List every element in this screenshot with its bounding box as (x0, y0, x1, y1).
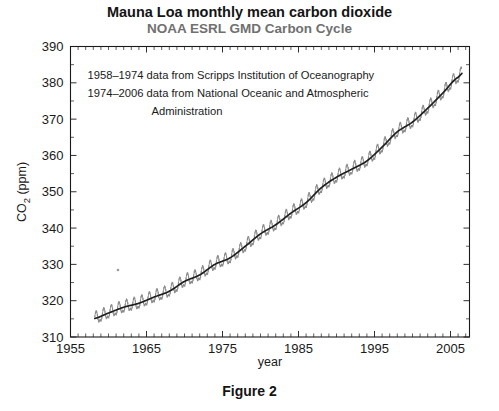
x-tick-label: 1985 (284, 341, 313, 356)
co2-figure: Mauna Loa monthly mean carbon dioxide NO… (0, 0, 499, 411)
annotation-line: 1974–2006 data from National Oceanic and… (88, 87, 370, 99)
x-axis-title: year (258, 355, 282, 369)
y-tick-label: 310 (42, 330, 64, 345)
y-tick-label: 390 (42, 39, 64, 54)
chart-subtitle: NOAA ESRL GMD Carbon Cycle (147, 21, 352, 36)
x-tick-label: 1995 (360, 341, 389, 356)
stray-speck (117, 269, 120, 272)
y-tick-label: 330 (42, 257, 64, 272)
y-axis-title-prefix: CO (15, 203, 29, 222)
y-tick-label: 350 (42, 184, 64, 199)
y-tick-label: 320 (42, 293, 64, 308)
y-tick-label: 360 (42, 148, 64, 163)
x-tick-label: 1965 (132, 341, 161, 356)
y-axis-title-suffix: (ppm) (15, 162, 29, 198)
figure-caption: Figure 2 (222, 383, 277, 399)
y-tick-label: 380 (42, 75, 64, 90)
x-tick-label: 1975 (208, 341, 237, 356)
annotation-line: 1958–1974 data from Scripps Institution … (88, 69, 375, 81)
y-tick-label: 370 (42, 112, 64, 127)
annotation-line: Administration (152, 105, 223, 117)
x-tick-label: 2005 (436, 341, 465, 356)
y-axis-tick-labels: 310320330340350360370380390 (42, 39, 64, 345)
chart-title: Mauna Loa monthly mean carbon dioxide (107, 4, 392, 20)
y-tick-label: 340 (42, 221, 64, 236)
